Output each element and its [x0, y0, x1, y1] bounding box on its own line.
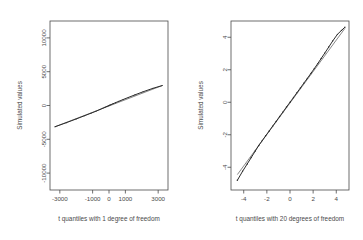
y-axis-tick-label: -2: [221, 131, 228, 137]
x-axis-tick-label: -1000: [85, 195, 101, 202]
x-axis-title: t quantiles with 20 degrees of freedom: [236, 215, 344, 223]
x-axis-tick-label: 3000: [151, 195, 165, 202]
qq-plot-svg-df20: -4-2024-4-2024t quantiles with 20 degree…: [181, 0, 362, 240]
y-axis-tick-label: 4: [221, 35, 228, 39]
x-axis-tick-label: 0: [288, 195, 292, 202]
x-axis-tick-label: -2: [264, 195, 270, 202]
y-axis-tick-label: 2: [221, 67, 228, 71]
qq-plot-panel-df1: -3000-1000010003000-10000-50000500010000…: [0, 0, 181, 240]
x-axis-tick-label: 4: [335, 195, 339, 202]
y-axis-tick-label: -10000: [40, 163, 47, 183]
y-axis-title: Simulated values: [16, 81, 23, 130]
qq-plot-svg-df1: -3000-1000010003000-10000-50000500010000…: [0, 0, 181, 240]
x-axis-tick-label: -3000: [52, 195, 68, 202]
x-axis-tick-label: 1000: [119, 195, 133, 202]
y-axis-tick-label: 10000: [40, 29, 47, 47]
y-axis-tick-label: -4: [221, 164, 228, 170]
x-axis-tick-label: 0: [107, 195, 111, 202]
x-axis-tick-label: -4: [241, 195, 247, 202]
y-axis-tick-label: 5000: [40, 64, 47, 78]
y-axis-tick-label: -5000: [40, 131, 47, 147]
y-axis-title: Simulated values: [197, 81, 204, 130]
y-axis-tick-label: 0: [40, 103, 47, 107]
x-axis-tick-label: 2: [311, 195, 315, 202]
y-axis-tick-label: 0: [221, 100, 228, 104]
qq-plot-panel-df20: -4-2024-4-2024t quantiles with 20 degree…: [181, 0, 362, 240]
x-axis-title: t quantiles with 1 degree of freedom: [58, 215, 160, 223]
